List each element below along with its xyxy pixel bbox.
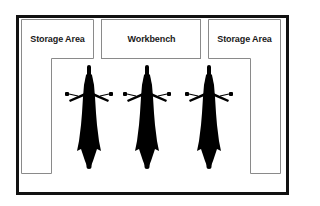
motorcycle-1 — [64, 65, 114, 169]
workbench-label: Workbench — [102, 34, 201, 44]
storage-left-label: Storage Area — [22, 34, 93, 44]
motorcycle-2 — [122, 65, 172, 169]
storage-right-label: Storage Area — [209, 34, 280, 44]
motorcycle-3 — [184, 65, 234, 169]
